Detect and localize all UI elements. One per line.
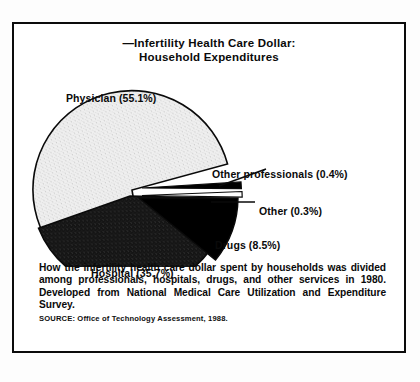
figure-source: SOURCE: Office of Technology Assessment,… — [39, 314, 389, 323]
figure-caption: How the infertility health care dollar s… — [39, 262, 386, 312]
pie-slice-other — [142, 192, 242, 198]
figure-frame: —Infertility Health Care Dollar: Househo… — [12, 22, 406, 353]
pie-chart: Physician (55.1%) Other professionals (0… — [14, 62, 408, 267]
slice-label-other: Other (0.3%) — [259, 205, 322, 217]
title-line-1: —Infertility Health Care Dollar: — [14, 36, 404, 50]
figure-page: —Infertility Health Care Dollar: Househo… — [0, 0, 420, 382]
slice-label-drugs: Drugs (8.5%) — [215, 239, 280, 251]
slice-label-other-professionals: Other professionals (0.4%) — [212, 168, 348, 180]
page-title: —Infertility Health Care Dollar: Househo… — [14, 36, 404, 64]
slice-label-physician: Physician (55.1%) — [66, 92, 156, 104]
